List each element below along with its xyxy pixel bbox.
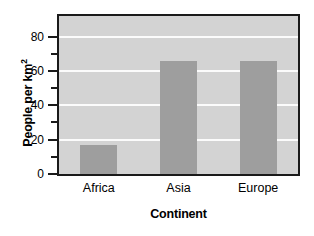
plot-area: [57, 14, 300, 176]
y-tick-label: 0: [37, 168, 44, 180]
bar-africa: [80, 145, 117, 174]
y-tick-label: 80: [31, 31, 44, 43]
x-axis-title: Continent: [57, 207, 300, 221]
y-tick-major: [48, 36, 57, 38]
bar-asia: [160, 61, 197, 174]
y-tick-major: [48, 104, 57, 106]
y-tick-label: 40: [31, 99, 44, 111]
bar-chart: People per km2 020406080 AfricaAsiaEurop…: [0, 0, 314, 236]
y-tick-major: [48, 173, 57, 175]
y-tick-major: [48, 139, 57, 141]
x-tick-label-europe: Europe: [208, 181, 308, 195]
y-axis-title-superscript: 2: [19, 59, 29, 64]
gridline: [59, 36, 298, 38]
y-tick-label: 60: [31, 65, 44, 77]
y-tick-major: [48, 70, 57, 72]
bar-europe: [240, 61, 277, 174]
y-tick-label: 20: [31, 134, 44, 146]
